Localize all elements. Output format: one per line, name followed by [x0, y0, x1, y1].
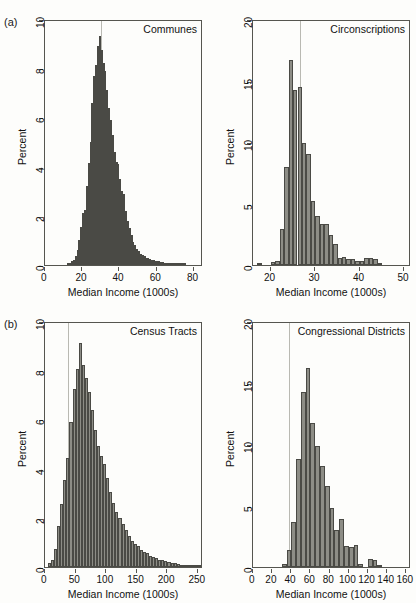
x-tick-label: 20 — [265, 574, 276, 585]
x-axis-title-4: Median Income (1000s) — [252, 588, 410, 600]
x-tick — [290, 569, 291, 573]
histogram-bar — [257, 263, 261, 265]
x-tick-label: 0 — [249, 574, 255, 585]
panel-title-2: Circonscriptions — [330, 23, 405, 35]
x-tick — [386, 569, 387, 573]
x-tick — [136, 569, 137, 573]
y-tick-label: 8 — [35, 371, 46, 377]
x-tick-label: 40 — [113, 272, 124, 283]
x-tick-label: 140 — [377, 574, 394, 585]
x-tick — [270, 267, 271, 271]
x-tick-label: 150 — [127, 574, 144, 585]
x-tick — [81, 267, 82, 271]
y-tick-label: 6 — [35, 420, 46, 426]
y-tick-label: 10 — [243, 140, 254, 151]
x-tick-label: 0 — [41, 574, 47, 585]
x-tick-label: 30 — [309, 272, 320, 283]
panel-tag-a: (a) — [4, 16, 17, 28]
x-tick-label: 60 — [150, 272, 161, 283]
y-axis-title-2: Percent — [224, 129, 236, 165]
x-tick-label: 40 — [353, 272, 364, 283]
y-tick-label: 6 — [35, 118, 46, 124]
x-tick-label: 80 — [323, 574, 334, 585]
x-axis-title-2: Median Income (1000s) — [252, 286, 410, 298]
x-tick — [193, 267, 194, 271]
x-tick — [166, 569, 167, 573]
y-tick-label: 10 — [243, 442, 254, 453]
y-axis-title-4: Percent — [224, 431, 236, 467]
y-tick-label: 4 — [35, 167, 46, 173]
y-tick-label: 10 — [35, 17, 46, 28]
x-tick-label: 20 — [75, 272, 86, 283]
x-tick — [44, 569, 45, 573]
x-tick-label: 40 — [285, 574, 296, 585]
x-tick-label: 250 — [188, 574, 205, 585]
histogram-bar — [377, 565, 382, 567]
x-tick — [197, 569, 198, 573]
x-tick-label: 50 — [69, 574, 80, 585]
x-tick-label: 50 — [398, 272, 409, 283]
x-tick — [329, 569, 330, 573]
x-tick — [44, 267, 45, 271]
histogram-bar — [378, 263, 382, 265]
x-tick-label: 160 — [397, 574, 414, 585]
histogram-bar — [358, 564, 363, 567]
x-tick — [271, 569, 272, 573]
x-tick — [314, 267, 315, 271]
x-tick — [156, 267, 157, 271]
y-tick-label: 2 — [35, 518, 46, 524]
y-tick-label: 5 — [243, 204, 254, 210]
y-tick-label: 20 — [243, 17, 254, 28]
x-tick — [348, 569, 349, 573]
x-tick-label: 20 — [264, 272, 275, 283]
plot-area-3: Census Tracts — [44, 322, 202, 568]
x-tick — [252, 569, 253, 573]
y-axis-title-3: Percent — [16, 431, 28, 467]
y-tick-label: 20 — [243, 319, 254, 330]
panel-tag-b: (b) — [4, 318, 17, 330]
plot-area-4: Congressional Districts — [252, 322, 410, 568]
y-tick-label: 4 — [35, 469, 46, 475]
x-tick-label: 200 — [158, 574, 175, 585]
y-tick-label: 15 — [243, 380, 254, 391]
x-tick — [359, 267, 360, 271]
y-tick-label: 2 — [35, 216, 46, 222]
y-tick-label: 10 — [35, 319, 46, 330]
histogram-bar — [184, 263, 186, 265]
x-axis-title-3: Median Income (1000s) — [44, 588, 202, 600]
panel-title-1: Communes — [143, 23, 197, 35]
x-axis-title-1: Median Income (1000s) — [44, 286, 202, 298]
x-tick — [309, 569, 310, 573]
y-tick-label: 0 — [243, 265, 254, 271]
x-tick-label: 60 — [304, 574, 315, 585]
y-axis-title-1: Percent — [16, 129, 28, 165]
panel-title-3: Census Tracts — [130, 325, 197, 337]
x-tick-label: 80 — [187, 272, 198, 283]
x-tick — [367, 569, 368, 573]
x-tick — [118, 267, 119, 271]
x-tick-label: 0 — [41, 272, 47, 283]
plot-area-2: Circonscriptions — [252, 20, 410, 266]
x-tick — [405, 569, 406, 573]
reference-line-4 — [289, 323, 290, 567]
x-tick — [105, 569, 106, 573]
y-tick-label: 8 — [35, 69, 46, 75]
x-tick — [75, 569, 76, 573]
x-tick — [403, 267, 404, 271]
y-tick-label: 15 — [243, 78, 254, 89]
panel-title-4: Congressional Districts — [298, 325, 405, 337]
x-tick-label: 120 — [358, 574, 375, 585]
figure-panel-grid: Communes0246810020406080PercentMedian In… — [0, 0, 416, 603]
plot-area-1: Communes — [44, 20, 202, 266]
x-tick-label: 100 — [339, 574, 356, 585]
x-tick-label: 100 — [97, 574, 114, 585]
histogram-bar — [198, 565, 201, 567]
y-tick-label: 5 — [243, 506, 254, 512]
